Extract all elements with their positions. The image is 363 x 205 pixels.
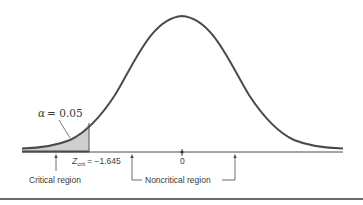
mean-dot	[180, 150, 183, 153]
alpha-pointer	[59, 120, 70, 138]
noncritical-region-label: Noncritical region	[145, 175, 211, 185]
mean-label: 0	[180, 156, 185, 166]
alpha-label: α= 0.05	[38, 107, 83, 119]
critical-region-shade	[22, 123, 89, 151]
critical-arrow-head	[54, 154, 57, 158]
noncritical-arrow-head-right	[233, 154, 236, 158]
noncritical-arrow-head-left	[130, 154, 133, 158]
critical-region-diagram: α= 0.05 Zcrit= −1.645 0 Critical region …	[0, 0, 363, 205]
normal-curve	[22, 16, 343, 149]
zcrit-label: Zcrit= −1.645	[71, 156, 121, 167]
critical-region-label: Critical region	[29, 175, 81, 185]
